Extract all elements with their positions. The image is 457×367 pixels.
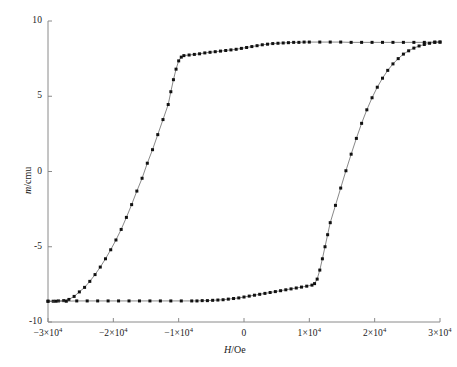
data-point-marker <box>216 299 219 302</box>
data-point-marker <box>303 41 306 44</box>
data-point-marker <box>365 108 368 111</box>
data-point-marker <box>318 269 321 272</box>
data-point-marker <box>109 248 112 251</box>
data-point-marker <box>423 43 426 46</box>
data-point-marker <box>224 49 227 52</box>
x-tick-label: −2×104 <box>83 328 143 338</box>
data-point-marker <box>75 299 78 302</box>
data-point-marker <box>114 238 117 241</box>
data-point-marker <box>316 278 319 281</box>
data-point-marker <box>229 48 232 51</box>
data-point-marker <box>360 41 363 44</box>
data-point-marker <box>232 297 235 300</box>
y-tick-label: 10 <box>6 15 42 25</box>
data-point-marker <box>180 56 183 59</box>
data-point-marker <box>138 299 141 302</box>
data-point-marker <box>360 122 363 125</box>
data-point-marker <box>169 90 172 93</box>
data-point-marker <box>402 53 405 56</box>
data-point-marker <box>243 296 246 299</box>
data-point-marker <box>222 298 225 301</box>
data-point-marker <box>107 299 110 302</box>
x-tick-label: 0 <box>214 328 274 338</box>
data-point-marker <box>237 296 240 299</box>
data-point-marker <box>180 299 183 302</box>
data-point-marker <box>146 162 149 165</box>
data-point-marker <box>326 233 329 236</box>
data-point-marker <box>54 300 57 303</box>
data-point-marker <box>274 290 277 293</box>
y-tick-label: -10 <box>6 316 42 326</box>
data-point-marker <box>250 45 253 48</box>
data-point-marker <box>376 86 379 89</box>
data-point-marker <box>67 298 70 301</box>
data-point-marker <box>190 299 193 302</box>
data-point-marker <box>308 41 311 44</box>
data-point-marker <box>297 41 300 44</box>
data-point-marker <box>94 273 97 276</box>
data-point-marker <box>159 299 162 302</box>
data-point-marker <box>371 41 374 44</box>
data-point-marker <box>313 282 316 285</box>
data-point-marker <box>135 190 138 193</box>
data-point-marker <box>284 288 287 291</box>
data-point-marker <box>253 294 256 297</box>
data-point-marker <box>344 169 347 172</box>
data-point-marker <box>300 286 303 289</box>
data-point-marker <box>412 41 415 44</box>
data-point-marker <box>321 257 324 260</box>
data-point-marker <box>125 216 128 219</box>
data-point-marker <box>86 299 89 302</box>
data-point-marker <box>266 43 269 46</box>
data-point-marker <box>198 52 201 55</box>
data-point-marker <box>83 286 86 289</box>
data-point-marker <box>172 78 175 81</box>
data-point-marker <box>329 41 332 44</box>
data-point-marker <box>292 41 295 44</box>
data-point-marker <box>117 299 120 302</box>
data-point-marker <box>99 266 102 269</box>
y-tick-label: 0 <box>6 166 42 176</box>
chart-background <box>0 0 457 367</box>
data-point-marker <box>329 221 332 224</box>
data-point-marker <box>169 299 172 302</box>
data-point-marker <box>73 295 76 298</box>
data-point-marker <box>148 299 151 302</box>
data-point-marker <box>397 57 400 60</box>
data-point-marker <box>206 299 209 302</box>
y-tick-label: 5 <box>6 90 42 100</box>
data-point-marker <box>47 300 50 303</box>
data-point-marker <box>219 50 222 53</box>
data-point-marker <box>269 291 272 294</box>
data-point-marker <box>428 42 431 45</box>
data-point-marker <box>235 48 238 51</box>
data-point-marker <box>287 41 290 44</box>
data-point-marker <box>211 299 214 302</box>
data-point-marker <box>195 299 198 302</box>
data-point-marker <box>402 41 405 44</box>
data-point-marker <box>355 137 358 140</box>
data-point-marker <box>156 133 159 136</box>
data-point-marker <box>141 177 144 180</box>
data-point-marker <box>214 50 217 53</box>
data-point-marker <box>391 62 394 65</box>
data-point-marker <box>201 299 204 302</box>
data-point-marker <box>78 290 81 293</box>
data-point-marker <box>271 42 274 45</box>
data-point-marker <box>193 53 196 56</box>
x-tick-label: −3×104 <box>18 328 78 338</box>
data-point-marker <box>182 54 185 57</box>
data-point-marker <box>209 51 212 54</box>
x-tick-label: 3×104 <box>410 328 457 338</box>
data-point-marker <box>318 41 321 44</box>
x-tick-label: 2×104 <box>345 328 405 338</box>
data-point-marker <box>130 203 133 206</box>
data-point-marker <box>65 300 68 303</box>
data-point-marker <box>305 285 308 288</box>
y-tick-label: -5 <box>6 241 42 251</box>
data-point-marker <box>258 293 261 296</box>
data-point-marker <box>371 96 374 99</box>
data-point-marker <box>62 299 65 302</box>
data-point-marker <box>433 41 436 44</box>
hysteresis-loop-figure: m/cmu H/Oe -10-50510−3×104−2×104−1×10401… <box>0 0 457 367</box>
